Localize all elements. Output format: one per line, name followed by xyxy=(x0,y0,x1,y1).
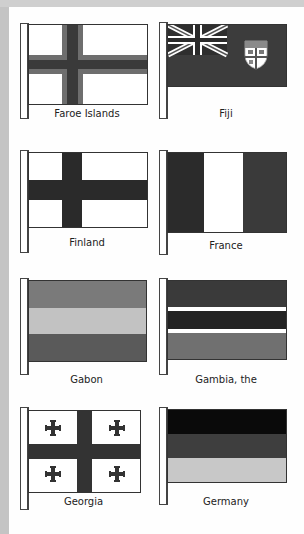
flag-gabon xyxy=(28,280,147,362)
flag-label: Gambia, the xyxy=(167,374,285,385)
flag-gambia xyxy=(167,280,287,360)
georgia-flag-icon xyxy=(29,411,140,492)
flag-label: Gabon xyxy=(28,374,145,385)
flag-france xyxy=(167,152,287,233)
flag-card-fiji: Fiji xyxy=(153,20,293,150)
gabon-flag-icon xyxy=(29,281,146,361)
flag-card-faroe-islands: Faroe Islands xyxy=(14,20,154,150)
flag-label: Germany xyxy=(167,496,285,507)
flag-card-france: France xyxy=(153,147,293,277)
page-gutter-top xyxy=(0,0,304,7)
faroe-islands-flag-icon xyxy=(29,25,147,104)
flag-label: France xyxy=(167,240,285,251)
page-gutter-left xyxy=(0,0,9,534)
flag-faroe-islands xyxy=(28,24,148,105)
flag-fiji xyxy=(167,24,287,87)
flag-georgia xyxy=(28,410,141,493)
flag-label: Faroe Islands xyxy=(28,108,146,119)
flag-card-germany: Germany xyxy=(153,406,293,534)
france-flag-icon xyxy=(168,153,286,232)
flag-label: Georgia xyxy=(28,496,139,507)
fiji-flag-icon xyxy=(168,25,286,86)
flag-card-gambia: Gambia, the xyxy=(153,277,293,407)
flag-card-finland: Finland xyxy=(14,147,154,277)
flag-germany xyxy=(167,409,287,483)
flag-label: Fiji xyxy=(167,108,285,119)
gambia-flag-icon xyxy=(168,281,286,359)
germany-flag-icon xyxy=(168,410,286,482)
flag-label: Finland xyxy=(28,237,146,248)
flag-finland xyxy=(28,152,148,228)
finland-flag-icon xyxy=(29,153,147,227)
flag-card-georgia: Georgia xyxy=(14,406,154,534)
flag-card-gabon: Gabon xyxy=(14,277,154,407)
